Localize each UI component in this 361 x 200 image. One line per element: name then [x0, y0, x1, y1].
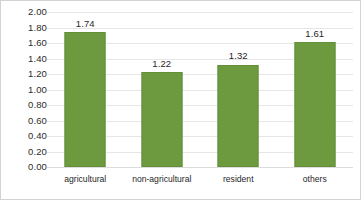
bar-slot: 1.32	[200, 12, 277, 167]
bar-chart-figure: 2.001.801.601.401.201.000.800.600.400.20…	[0, 0, 361, 200]
bar[interactable]	[141, 72, 182, 167]
y-axis-tick-label: 1.40	[3, 54, 47, 64]
y-axis-tick-label: 0.80	[3, 100, 47, 110]
y-axis-tick-label: 1.60	[3, 38, 47, 48]
bar[interactable]	[294, 42, 335, 167]
y-axis-tick-label: 1.80	[3, 23, 47, 33]
bar[interactable]	[218, 65, 259, 167]
y-axis-tick-label: 0.40	[3, 131, 47, 141]
bar-series: 1.741.221.321.61	[47, 12, 353, 167]
plot-area: 1.741.221.321.61	[47, 12, 353, 167]
y-axis-tick-label: 2.00	[3, 7, 47, 17]
bar-slot: 1.74	[47, 12, 124, 167]
x-axis-category-label: agricultural	[64, 175, 106, 184]
y-axis-tick-label: 1.00	[3, 85, 47, 95]
x-axis-category-label: others	[303, 175, 327, 184]
bar-value-label: 1.61	[305, 29, 324, 39]
y-axis-tick-label: 0.20	[3, 147, 47, 157]
bar-slot: 1.61	[277, 12, 354, 167]
x-axis-category-label: resident	[223, 175, 254, 184]
y-axis-tick-label: 1.20	[3, 69, 47, 79]
bar[interactable]	[65, 32, 106, 167]
y-axis-tick-label: 0.00	[3, 162, 47, 172]
gridline	[47, 167, 353, 168]
bar-value-label: 1.74	[76, 19, 95, 29]
bar-slot: 1.22	[124, 12, 201, 167]
bar-value-label: 1.32	[229, 51, 248, 61]
x-axis-category-label: non-agricultural	[132, 175, 191, 184]
y-axis-tick-label: 0.60	[3, 116, 47, 126]
bar-value-label: 1.22	[152, 59, 171, 69]
